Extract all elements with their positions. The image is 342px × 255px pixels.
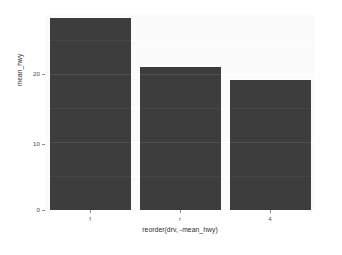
y-axis-tick-20: 20 <box>0 69 45 79</box>
y-axis-tick-label-20: 20 <box>33 69 40 79</box>
y-axis-tick-10: 10 <box>0 139 45 149</box>
x-axis-tick-label-f: f <box>75 214 105 223</box>
x-axis-title: reorder(drv, -mean_hwy) <box>45 226 315 233</box>
x-axis-tick-mark <box>90 210 91 213</box>
bar-chart: mean_hwy 20 10 0 <box>0 0 342 255</box>
bar-4 <box>230 80 311 211</box>
x-axis-tick-label-r: r <box>165 214 195 223</box>
x-axis: f r 4 reorder(drv, -mean_hwy) <box>45 210 315 255</box>
plot-panel <box>45 15 315 210</box>
y-axis: mean_hwy 20 10 0 <box>0 0 45 255</box>
bar-f <box>50 18 131 210</box>
x-axis-tick-mark <box>270 210 271 213</box>
y-axis-tick-label-10: 10 <box>33 139 40 149</box>
bar-r <box>140 67 221 210</box>
x-axis-tick-label-4: 4 <box>255 214 285 223</box>
x-axis-tick-mark <box>180 210 181 213</box>
y-axis-tick-0: 0 <box>0 205 45 215</box>
y-axis-tick-label-0: 0 <box>37 205 40 215</box>
